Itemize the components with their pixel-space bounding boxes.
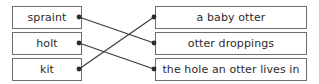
left-term-label: spraint [27,12,66,23]
right-definition-label: the hole an otter lives in [162,64,299,75]
connector-line[interactable] [79,43,154,69]
right-definition-otter-hole[interactable]: the hole an otter lives in [155,58,307,81]
left-term-holt[interactable]: holt [12,32,82,55]
right-definition-a-baby-otter[interactable]: a baby otter [155,6,307,29]
left-term-label: holt [36,38,57,49]
left-term-kit[interactable]: kit [12,58,82,81]
connector-line[interactable] [79,17,154,43]
right-definition-label: otter droppings [188,38,274,49]
matching-exercise: spraint holt kit a baby otter otter drop… [0,0,319,84]
left-term-spraint[interactable]: spraint [12,6,82,29]
right-definition-otter-droppings[interactable]: otter droppings [155,32,307,55]
connector-line[interactable] [79,17,154,69]
right-definition-label: a baby otter [197,12,266,23]
left-term-label: kit [40,64,54,75]
